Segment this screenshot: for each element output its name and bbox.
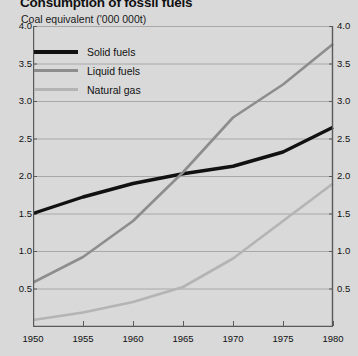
y-axis-tick-label-left: 3.0	[19, 95, 32, 106]
x-axis-tick-label: 1950	[13, 333, 53, 344]
y-axis-tick-label-left: 0.5	[19, 283, 32, 294]
y-axis-tick-label-right: 1.5	[337, 208, 350, 219]
y-axis-tick-label-left: 4.0	[19, 20, 32, 31]
y-axis-tick-label-right: 1.0	[337, 245, 350, 256]
y-axis-tick-label-left: 2.0	[19, 170, 32, 181]
y-axis-tick-label-left: 2.5	[19, 133, 32, 144]
y-axis-tick-label-left: 1.0	[19, 245, 32, 256]
legend-swatch-natural-gas	[34, 88, 78, 91]
y-axis-tick-label-right: 3.5	[337, 58, 350, 69]
y-axis-tick-label-right: 2.0	[337, 170, 350, 181]
x-axis-tick-label: 1960	[113, 333, 153, 344]
y-axis-tick-label-left: 1.5	[19, 208, 32, 219]
y-axis-tick-label-right: 0.5	[337, 283, 350, 294]
chart-subtitle: Coal equivalent ('000 000t)	[21, 13, 146, 25]
y-axis-tick-label-right: 3.0	[337, 95, 350, 106]
legend-label-natural-gas: Natural gas	[87, 84, 141, 96]
y-axis-tick-label-left: 3.5	[19, 58, 32, 69]
x-axis-tick-label: 1965	[163, 333, 203, 344]
x-axis-tick-label: 1980	[313, 333, 353, 344]
chart-figure: Consumption of fossil fuels Coal equival…	[0, 0, 358, 356]
y-axis-tick-label-right: 4.0	[337, 20, 350, 31]
x-axis-tick-label: 1955	[63, 333, 103, 344]
x-axis-tick-label: 1975	[263, 333, 303, 344]
legend-item-liquid-fuels: Liquid fuels	[34, 61, 174, 80]
legend-label-liquid-fuels: Liquid fuels	[87, 65, 140, 77]
legend-swatch-solid-fuels	[34, 50, 78, 54]
legend-item-natural-gas: Natural gas	[34, 80, 174, 99]
x-axis-tick-label: 1970	[213, 333, 253, 344]
legend-label-solid-fuels: Solid fuels	[87, 46, 135, 58]
chart-title: Consumption of fossil fuels	[20, 0, 192, 10]
legend-item-solid-fuels: Solid fuels	[34, 42, 174, 61]
legend-swatch-liquid-fuels	[34, 69, 78, 72]
chart-legend: Solid fuels Liquid fuels Natural gas	[34, 42, 174, 99]
y-axis-tick-label-right: 2.5	[337, 133, 350, 144]
